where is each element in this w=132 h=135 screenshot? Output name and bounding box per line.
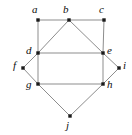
- vertex-d: [36, 51, 39, 54]
- edge-b-e: [69, 20, 103, 53]
- vertex-label-b: b: [63, 4, 69, 15]
- vertex-a: [36, 18, 39, 21]
- edge-g-j: [38, 84, 70, 116]
- vertex-f: [21, 66, 24, 69]
- edge-c-e: [103, 20, 104, 53]
- vertices-group: [21, 18, 120, 117]
- edges-group: [23, 20, 119, 116]
- vertex-label-g: g: [26, 79, 32, 90]
- vertex-label-i: i: [123, 60, 126, 71]
- vertex-label-c: c: [99, 4, 104, 15]
- vertex-label-h: h: [107, 79, 113, 90]
- vertex-i: [117, 66, 120, 69]
- vertex-b: [67, 18, 70, 21]
- vertex-c: [102, 18, 105, 21]
- edge-j-h: [70, 84, 103, 116]
- graph-canvas: [0, 0, 132, 135]
- vertex-e: [101, 51, 104, 54]
- vertex-label-d: d: [26, 45, 32, 56]
- vertex-g: [36, 82, 39, 85]
- vertex-label-f: f: [13, 60, 16, 71]
- graph-figure: abcdefghij: [0, 0, 132, 135]
- vertex-label-e: e: [107, 45, 112, 56]
- vertex-label-j: j: [66, 120, 69, 131]
- vertex-j: [68, 114, 71, 117]
- edge-d-b: [38, 20, 69, 53]
- vertex-label-a: a: [32, 4, 38, 15]
- vertex-h: [101, 82, 104, 85]
